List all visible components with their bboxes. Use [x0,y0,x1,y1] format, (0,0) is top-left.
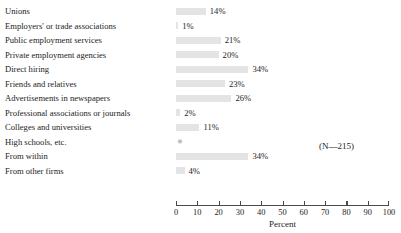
bar-area: 20% [176,48,389,63]
bar-area: 14% [176,4,389,19]
bar-area: 11% [176,120,389,135]
chart-row: Professional associations or journals2% [0,106,401,121]
bar-area: 4% [176,164,389,179]
x-axis-tick [304,201,305,205]
category-label: Public employment services [5,33,102,48]
bar [176,167,185,174]
category-label: Colleges and universities [5,120,91,135]
bar-area: 21% [176,33,389,48]
chart-row: Direct hiring34% [0,62,401,77]
x-axis-tick [261,201,262,205]
bar [176,66,248,73]
x-axis-tick [176,201,177,205]
bar-value-label: 1% [182,19,193,34]
bar-value-label: 11% [203,120,218,135]
bar-value-label: 34% [252,62,268,77]
bar [176,153,248,160]
chart-row: Advertisements in newspapers26% [0,91,401,106]
category-label: Private employment agencies [5,48,106,63]
bar [176,80,225,87]
category-label: High schools, etc. [5,135,67,150]
x-axis-tick [219,201,220,205]
x-axis-line [176,205,389,206]
x-axis-tick-label: 0 [174,208,178,217]
chart-row: Friends and relatives23% [0,77,401,92]
chart-row: Unions14% [0,4,401,19]
category-label: Advertisements in newspapers [5,91,110,106]
negligible-value-marker: ✵ [177,140,181,144]
bar-value-label: 2% [184,106,195,121]
x-axis-tick-label: 10 [193,208,201,217]
chart-row: Private employment agencies20% [0,48,401,63]
x-axis-title: Percent [176,219,389,229]
category-label: Professional associations or journals [5,106,130,121]
bar [176,8,206,15]
x-axis-tick-label: 90 [364,208,372,217]
x-axis-tick [388,201,389,205]
bar [176,95,231,102]
x-axis-tick [197,201,198,205]
category-label: Unions [5,4,30,19]
bar-value-label: 26% [235,91,251,106]
bar-area: 23% [176,77,389,92]
bar-value-label: 21% [225,33,241,48]
x-axis-tick-label: 30 [236,208,244,217]
bar-area: 34% [176,62,389,77]
chart-row: Employers' or trade associations1% [0,19,401,34]
bar-area: 1% [176,19,389,34]
x-axis-tick [346,201,347,205]
bar-value-label: 14% [210,4,226,19]
category-label: From other firms [5,164,64,179]
x-axis-tick-label: 60 [300,208,308,217]
bar-area: ✵ [176,135,389,150]
chart-row: From other firms4% [0,164,401,179]
bar [176,109,180,116]
chart-rows: Unions14%Employers' or trade association… [0,4,401,178]
category-label: From within [5,149,48,164]
bar [176,51,219,58]
bar-area: 26% [176,91,389,106]
category-label: Friends and relatives [5,77,77,92]
bar-value-label: 4% [189,164,200,179]
x-axis-tick [283,201,284,205]
sample-size-annotation: (N—215) [319,141,354,151]
chart-row: Public employment services21% [0,33,401,48]
bar-value-label: 23% [229,77,245,92]
x-axis-tick-label: 70 [321,208,329,217]
x-axis-tick-label: 20 [214,208,222,217]
chart-row: From within34% [0,149,401,164]
bar-area: 2% [176,106,389,121]
category-label: Direct hiring [5,62,49,77]
x-axis-tick-label: 50 [278,208,286,217]
x-axis-tick [240,201,241,205]
bar [176,124,199,131]
bar [176,22,178,29]
bar-area: 34% [176,149,389,164]
bar-value-label: 20% [223,48,239,63]
bar-value-label: 34% [252,149,268,164]
x-axis-tick-label: 80 [342,208,350,217]
x-axis-tick [325,201,326,205]
bar [176,37,221,44]
x-axis-tick-label: 100 [383,208,396,217]
x-axis-tick-label: 40 [257,208,265,217]
bar-chart: Unions14%Employers' or trade association… [0,0,401,233]
chart-row: Colleges and universities11% [0,120,401,135]
category-label: Employers' or trade associations [5,19,116,34]
x-axis-tick [368,201,369,205]
